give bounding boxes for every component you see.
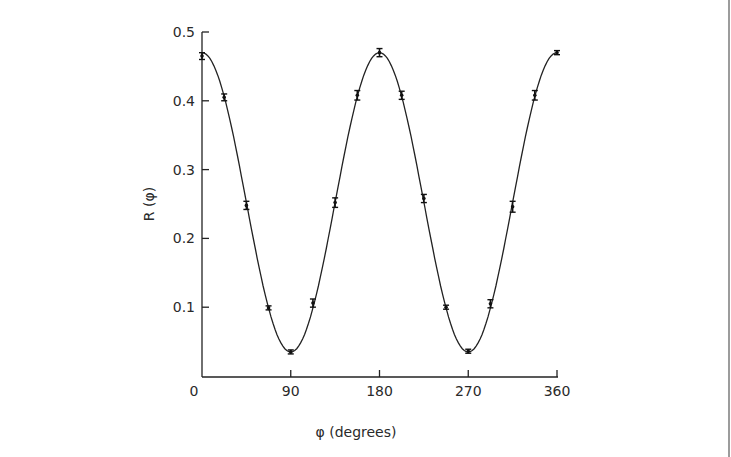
data-point bbox=[532, 91, 538, 101]
data-point bbox=[221, 94, 227, 101]
axes bbox=[202, 32, 558, 377]
x-tick-label: 0 bbox=[190, 383, 199, 399]
data-point bbox=[354, 91, 360, 101]
data-point bbox=[243, 201, 249, 209]
data-point bbox=[421, 194, 427, 202]
data-point bbox=[332, 198, 338, 208]
y-tick-label: 0.4 bbox=[173, 93, 195, 109]
fit-curve bbox=[202, 53, 557, 352]
y-tick-label: 0.2 bbox=[173, 230, 195, 246]
x-tick-label: 90 bbox=[282, 383, 300, 399]
x-tick-label: 180 bbox=[366, 383, 393, 399]
x-ticks: 090180270360 bbox=[190, 370, 571, 399]
x-axis-label: φ (degrees) bbox=[316, 424, 397, 440]
y-tick-label: 0.3 bbox=[173, 162, 195, 178]
y-ticks: 0.10.20.30.40.5 bbox=[173, 24, 209, 315]
x-tick-label: 360 bbox=[544, 383, 571, 399]
data-point bbox=[443, 305, 449, 309]
y-tick-label: 0.1 bbox=[173, 299, 195, 315]
x-tick-label: 270 bbox=[455, 383, 482, 399]
chart: 090180270360 0.10.20.30.40.5 φ (degrees)… bbox=[0, 0, 731, 457]
data-point bbox=[399, 91, 405, 99]
y-axis-label: R (φ) bbox=[141, 187, 157, 221]
data-points bbox=[199, 49, 560, 354]
data-point bbox=[266, 306, 272, 310]
y-tick-label: 0.5 bbox=[173, 24, 195, 40]
